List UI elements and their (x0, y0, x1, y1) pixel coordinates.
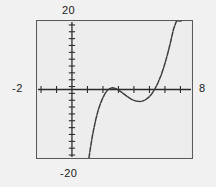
x-min-label: -2 (12, 82, 23, 94)
y-max-label: 20 (62, 4, 75, 16)
y-min-label: -20 (60, 167, 77, 179)
x-max-label: 8 (199, 82, 206, 94)
graph-figure: 20 -20 -2 8 (0, 0, 216, 187)
plot-canvas (37, 21, 192, 158)
plot-frame (36, 20, 193, 159)
